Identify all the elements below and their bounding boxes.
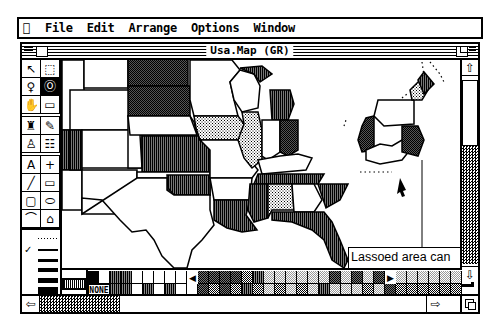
pattern-swatch[interactable] — [297, 271, 308, 284]
pattern-swatch[interactable] — [209, 271, 220, 284]
pattern-swatch[interactable] — [88, 271, 99, 284]
menu-options[interactable]: Options — [191, 21, 239, 35]
pattern-swatch[interactable] — [308, 271, 319, 284]
rounded-rect-tool[interactable]: ▢ — [22, 192, 41, 210]
pencil-icon: ✎ — [45, 120, 55, 132]
rectangle-tool[interactable]: ▭ — [41, 174, 60, 192]
paint-bucket-icon: ♙ — [26, 138, 37, 150]
scroll-down-arrow-icon[interactable]: ⇩ — [462, 266, 478, 282]
pattern-swatch[interactable] — [176, 271, 187, 284]
window-title: Usa.Map (GR) — [206, 44, 293, 58]
crosshair-tool[interactable]: + — [41, 156, 60, 174]
menu-window[interactable]: Window — [253, 21, 295, 35]
palette-scroll-right-icon[interactable]: ▶ — [385, 271, 396, 284]
brush-tool[interactable]: ♜ — [22, 117, 41, 135]
pattern-swatch[interactable] — [121, 271, 132, 284]
pattern-swatch[interactable] — [396, 271, 407, 284]
lasso-icon: Ⓞ — [44, 81, 56, 93]
lasso-grab-tool[interactable]: ♀ — [22, 78, 41, 96]
line-width-2[interactable] — [22, 256, 60, 266]
pattern-swatch[interactable] — [154, 271, 165, 284]
title-bar[interactable]: Usa.Map (GR) — [22, 44, 478, 60]
vertical-scroll-thumb[interactable] — [462, 80, 478, 146]
crosshair-icon: + — [45, 159, 55, 171]
map-canvas[interactable] — [62, 60, 462, 268]
palette-scroll-left-icon[interactable]: ◀ — [187, 271, 198, 284]
paint-bucket-tool[interactable]: ♙ — [22, 135, 41, 153]
pattern-swatch[interactable] — [220, 271, 231, 284]
pattern-swatch[interactable] — [407, 271, 418, 284]
text-tool[interactable]: A — [22, 156, 41, 174]
line-width-palette: ✓ — [22, 228, 60, 296]
pattern-swatch[interactable] — [132, 271, 143, 284]
pattern-swatch[interactable] — [242, 271, 253, 284]
pattern-swatch[interactable] — [198, 271, 209, 284]
pattern-swatch[interactable] — [330, 271, 341, 284]
scroll-up-arrow-icon[interactable]: ⇧ — [462, 60, 478, 76]
apple-menu-icon[interactable]:  — [23, 21, 45, 35]
line-width-1[interactable]: ✓ — [22, 246, 60, 256]
pattern-swatch[interactable] — [231, 271, 242, 284]
arrow-tool[interactable]: ↖ — [22, 60, 41, 78]
line-width-4[interactable] — [22, 276, 60, 286]
pencil-tool[interactable]: ✎ — [41, 117, 60, 135]
pattern-swatch[interactable] — [286, 271, 297, 284]
size-box-icon[interactable] — [460, 294, 478, 312]
polygon-tool[interactable]: ⌂ — [41, 210, 60, 228]
line-width-3[interactable] — [22, 266, 60, 276]
horizontal-scrollbar[interactable]: ⇦ ⇨ — [22, 294, 462, 312]
pattern-swatch[interactable] — [165, 271, 176, 284]
text-icon: A — [27, 159, 35, 171]
horizontal-scroll-thumb[interactable] — [40, 296, 120, 312]
arc-icon: ⌒ — [25, 213, 37, 225]
oval-tool[interactable]: ⬭ — [41, 192, 60, 210]
polygon-icon: ⌂ — [46, 213, 54, 225]
pattern-swatch[interactable] — [99, 271, 110, 284]
close-box-icon[interactable] — [36, 46, 48, 57]
rounded-rect-icon: ▢ — [25, 195, 36, 207]
pattern-swatch[interactable] — [264, 271, 275, 284]
usa-map — [62, 60, 462, 268]
lasso-tool[interactable]: Ⓞ — [41, 78, 60, 96]
arrow-icon: ↖ — [26, 63, 36, 75]
pattern-swatch[interactable] — [352, 271, 363, 284]
pattern-swatch[interactable] — [363, 271, 374, 284]
pattern-swatch[interactable] — [374, 271, 385, 284]
vertical-scroll-track[interactable] — [462, 146, 478, 264]
pattern-swatch[interactable] — [440, 271, 451, 284]
hand-tool[interactable]: ✋ — [22, 96, 41, 114]
spray-can-icon: ☷ — [45, 138, 56, 150]
callout-line-1: Lassoed area can — [351, 249, 469, 266]
vertical-scrollbar[interactable]: ⇧ ⇩ — [460, 60, 478, 282]
pattern-swatch[interactable] — [341, 271, 352, 284]
checkmark-icon: ✓ — [24, 244, 32, 255]
line-tool[interactable]: ╱ — [22, 174, 41, 192]
scroll-left-arrow-icon[interactable]: ⇦ — [22, 296, 40, 312]
document-window: Usa.Map (GR) ↖⬚♀Ⓞ✋▭♜✎♙☷A+╱▭▢⬭⌒⌂ ✓ — [20, 42, 480, 314]
toolbox: ↖⬚♀Ⓞ✋▭♜✎♙☷A+╱▭▢⬭⌒⌂ ✓ — [22, 60, 62, 298]
menu-file[interactable]: File — [45, 21, 73, 35]
line-icon: ╱ — [27, 177, 34, 189]
tool-grid: ↖⬚♀Ⓞ✋▭♜✎♙☷A+╱▭▢⬭⌒⌂ — [22, 60, 60, 228]
pattern-swatch[interactable] — [110, 271, 121, 284]
menu-arrange[interactable]: Arrange — [128, 21, 176, 35]
window-menu-icon[interactable] — [24, 46, 33, 57]
scroll-right-arrow-icon[interactable]: ⇨ — [426, 296, 444, 312]
zoom-box-icon[interactable] — [456, 46, 468, 57]
spray-can-tool[interactable]: ☷ — [41, 135, 60, 153]
eraser-tool[interactable]: ▭ — [41, 96, 60, 114]
pattern-swatch[interactable] — [418, 271, 429, 284]
pattern-swatch[interactable] — [319, 271, 330, 284]
pattern-swatch[interactable] — [275, 271, 286, 284]
pattern-swatch[interactable] — [143, 271, 154, 284]
arc-tool[interactable]: ⌒ — [22, 210, 41, 228]
pattern-swatch[interactable] — [451, 271, 462, 284]
brush-icon: ♜ — [26, 120, 37, 132]
marquee-icon: ⬚ — [44, 63, 55, 75]
menu-edit[interactable]: Edit — [87, 21, 115, 35]
pattern-swatch[interactable] — [429, 271, 440, 284]
window-options-icon[interactable] — [469, 46, 476, 57]
hand-icon: ✋ — [24, 99, 39, 111]
marquee-tool[interactable]: ⬚ — [41, 60, 60, 78]
pattern-swatch[interactable] — [253, 271, 264, 284]
